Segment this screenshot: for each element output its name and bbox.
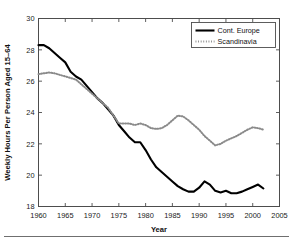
y-tick-label: 18: [26, 202, 34, 211]
figure-container: 1960196519701975198019851990199520002005…: [0, 0, 293, 244]
y-tick-label: 30: [26, 14, 34, 23]
series-line-1: [39, 45, 264, 193]
y-tick-label: 20: [26, 171, 34, 180]
x-tick-label: 1960: [30, 211, 46, 220]
y-tick-label: 26: [26, 77, 34, 86]
y-tick-label: 28: [26, 46, 34, 55]
x-tick-label: 1970: [84, 211, 100, 220]
y-tick-label: 22: [26, 140, 34, 149]
legend-label-2: Scandinavia: [218, 37, 257, 46]
x-tick-label: 2000: [244, 211, 260, 220]
line-chart: 1960196519701975198019851990199520002005…: [0, 0, 293, 244]
y-tick-label: 24: [26, 108, 34, 117]
x-tick-label: 2005: [271, 211, 287, 220]
x-tick-label: 1980: [137, 211, 153, 220]
x-tick-label: 1995: [218, 211, 234, 220]
x-tick-label: 1985: [164, 211, 180, 220]
x-tick-label: 1975: [111, 211, 127, 220]
x-tick-label: 1965: [57, 211, 73, 220]
legend-label-1: Cont. Europe: [218, 26, 260, 35]
x-tick-label: 1990: [191, 211, 207, 220]
page-divider: [4, 236, 289, 237]
y-axis-title: Weekly Hours Per Person Aged 15–64: [3, 44, 12, 181]
x-axis-title: Year: [151, 225, 167, 234]
series-line-2: [39, 73, 264, 146]
